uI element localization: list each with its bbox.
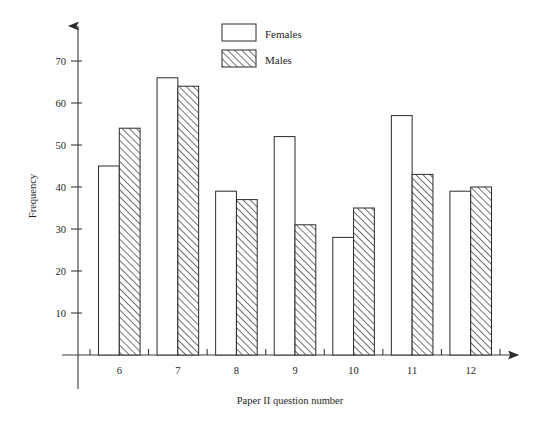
legend-label-males: Males <box>265 54 292 66</box>
legend: Females Males <box>222 24 302 67</box>
x-tick-label-q7: 7 <box>175 365 180 376</box>
legend-swatch-males <box>222 50 256 67</box>
chart-canvas: 10203040506070 6789101112 Frequency Pape… <box>0 0 546 423</box>
bar-males-q10 <box>354 208 375 355</box>
y-tick-label: 40 <box>56 182 67 193</box>
bar-males-q7 <box>178 86 199 355</box>
bar-females-q9 <box>274 137 295 355</box>
bar-females-q7 <box>157 78 178 355</box>
x-tick-label-q12: 12 <box>465 365 476 376</box>
bar-males-q6 <box>119 128 140 355</box>
y-tick-label: 30 <box>56 224 67 235</box>
y-tick-label: 10 <box>56 308 67 319</box>
x-tick-label-q10: 10 <box>348 365 359 376</box>
x-axis-title: Paper II question number <box>237 395 344 406</box>
bar-males-q8 <box>236 200 257 355</box>
x-tick-label-q6: 6 <box>117 365 122 376</box>
bar-females-q6 <box>98 166 119 355</box>
y-tick-label: 20 <box>56 266 67 277</box>
bar-females-q8 <box>216 191 237 355</box>
bar-females-q11 <box>391 116 412 355</box>
legend-swatch-females <box>222 24 256 41</box>
bar-males-q12 <box>471 187 492 355</box>
y-axis-title: Frequency <box>27 173 38 218</box>
bars-group <box>98 78 491 355</box>
bar-males-q11 <box>412 174 433 355</box>
x-tick-label-q8: 8 <box>234 365 239 376</box>
y-tick-label: 70 <box>56 56 67 67</box>
y-tick-label: 60 <box>56 98 67 109</box>
bar-females-q12 <box>450 191 471 355</box>
x-axis-tick-labels: 6789101112 <box>117 365 476 376</box>
x-tick-label-q9: 9 <box>292 365 297 376</box>
legend-label-females: Females <box>265 28 302 40</box>
x-tick-label-q11: 11 <box>407 365 417 376</box>
bar-females-q10 <box>333 237 354 355</box>
bar-males-q9 <box>295 225 316 355</box>
bar-chart-figure: 10203040506070 6789101112 Frequency Pape… <box>0 0 546 423</box>
y-tick-label: 50 <box>56 140 67 151</box>
